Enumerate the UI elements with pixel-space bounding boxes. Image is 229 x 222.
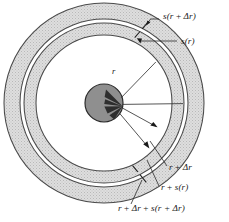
label-s-r: s(r) <box>181 36 195 46</box>
label-radius-r: r <box>112 66 116 76</box>
label-s-r-delta-r: s(r + Δr) <box>163 11 196 21</box>
annulus-diagram: s(r + Δr) s(r) r r + Δr r + s(r) r + Δr … <box>0 0 229 222</box>
label-total-displacement: r + Δr + s(r + Δr) <box>118 203 185 213</box>
label-r-plus-delta-r: r + Δr <box>169 162 192 172</box>
figure-container: s(r + Δr) s(r) r r + Δr r + s(r) r + Δr … <box>0 0 229 222</box>
label-r-plus-s-r: r + s(r) <box>161 182 188 192</box>
center-hub <box>85 84 123 122</box>
